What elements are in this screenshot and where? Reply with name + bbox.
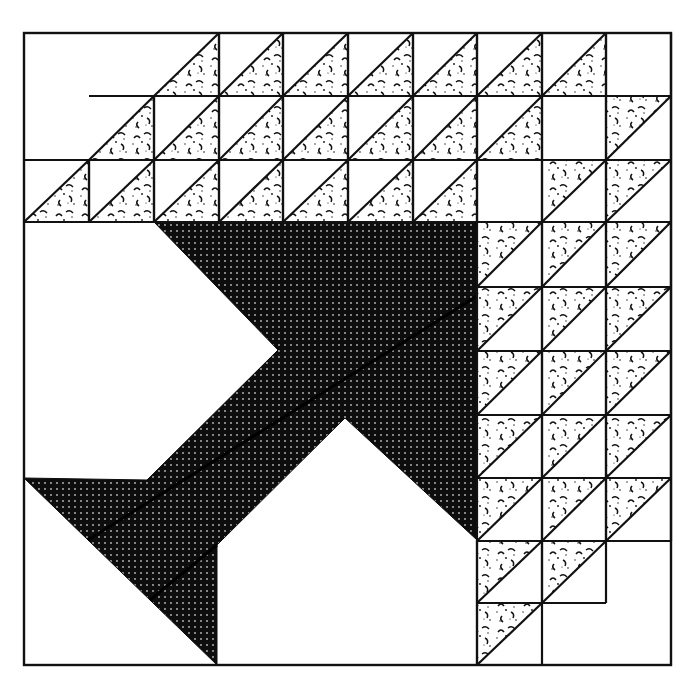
arrow-shape: [24, 222, 477, 665]
quilt-block: [0, 0, 689, 683]
quilt-block-drawing: [0, 0, 689, 683]
arrow-body: [24, 222, 477, 665]
